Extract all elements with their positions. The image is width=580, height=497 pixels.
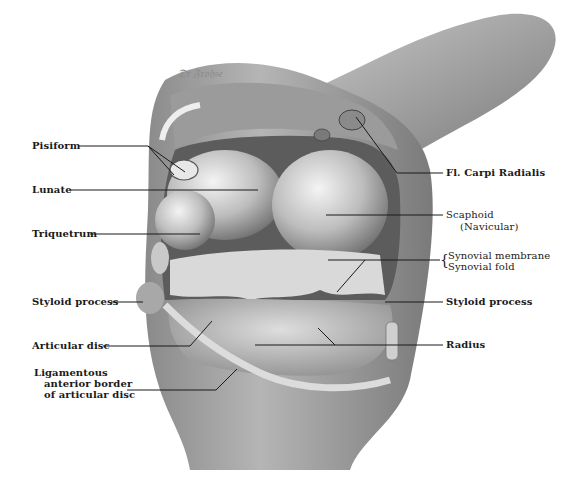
wrist-illustration: 𝔇𝔯 𝔉𝔯𝔬𝔥𝔰𝔢 — [0, 0, 580, 497]
label-styloid-process-ulna: Styloid process — [32, 296, 119, 308]
label-articular-disc: Articular disc — [32, 340, 110, 352]
pisiform-bone — [170, 160, 198, 180]
label-styloid-process-radius: Styloid process — [446, 296, 533, 308]
scaphoid-bone — [272, 150, 388, 260]
label-radius: Radius — [446, 339, 485, 351]
ulnar-styloid — [136, 282, 164, 314]
label-navicular: (Navicular) — [460, 221, 518, 233]
label-triquetrum: Triquetrum — [32, 228, 97, 240]
label-lunate: Lunate — [32, 184, 72, 196]
label-ligamentous-3: of articular disc — [44, 389, 135, 401]
tendon-slip — [314, 129, 330, 141]
label-synovial-fold: Synovial fold — [448, 261, 515, 273]
label-fl-carpi-radialis: Fl. Carpi Radialis — [446, 167, 545, 179]
radial-tendon — [386, 322, 398, 360]
label-scaphoid: Scaphoid — [446, 209, 494, 221]
triquetrum-bone — [155, 190, 215, 250]
label-pisiform: Pisiform — [32, 140, 80, 152]
artist-signature: 𝔇𝔯 𝔉𝔯𝔬𝔥𝔰𝔢 — [178, 67, 223, 79]
anatomical-figure: 𝔇𝔯 𝔉𝔯𝔬𝔥𝔰𝔢 Pisiform Lunate Triquetrum — [0, 0, 580, 497]
synovial-membrane — [170, 250, 385, 300]
ulnar-soft-tissue — [151, 242, 169, 274]
fcr-tendon — [339, 110, 365, 130]
